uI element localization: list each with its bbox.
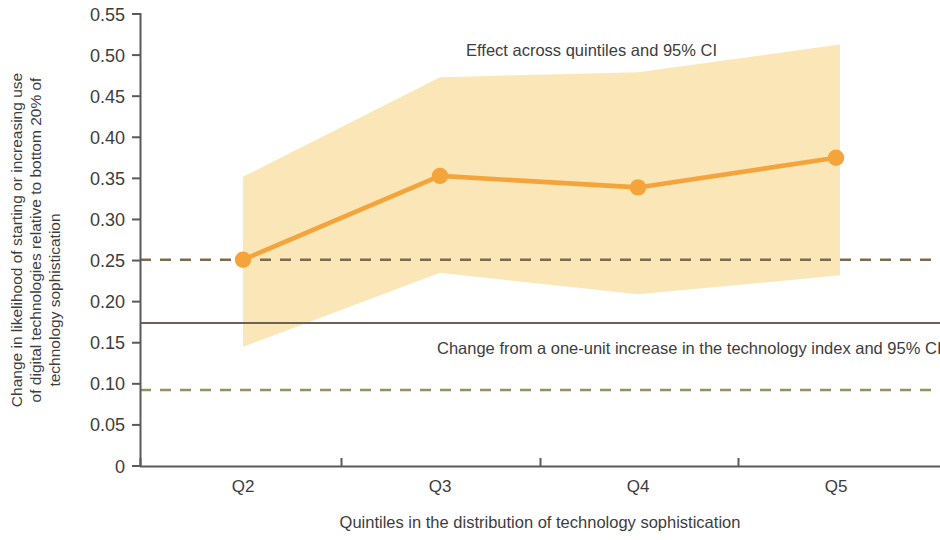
data-point-q4 — [630, 179, 646, 195]
y-axis-tick-label: 0.40 — [90, 128, 125, 148]
x-axis-tick-label-q3: Q3 — [429, 477, 452, 496]
data-point-q3 — [432, 168, 448, 184]
y-axis-title-line-2: of digital technologies relative to bott… — [27, 77, 44, 403]
data-point-q2 — [235, 252, 251, 268]
y-axis-tick-label: 0.05 — [90, 415, 125, 435]
x-axis-tick-label-q5: Q5 — [825, 477, 848, 496]
chart-figure: 00.050.100.150.200.250.300.350.400.450.5… — [0, 0, 940, 540]
x-axis-title: Quintiles in the distribution of technol… — [340, 513, 741, 531]
x-axis-tick-label-q2: Q2 — [232, 477, 255, 496]
y-axis-title-line-3: technology sophistication — [46, 213, 63, 386]
y-axis-tick-label: 0 — [115, 457, 125, 477]
y-axis-tick-label: 0.45 — [90, 87, 125, 107]
line-chart-with-confidence-band: 00.050.100.150.200.250.300.350.400.450.5… — [0, 0, 940, 540]
y-axis-tick-label: 0.20 — [90, 292, 125, 312]
y-axis-tick-label: 0.10 — [90, 374, 125, 394]
y-axis-tick-label: 0.55 — [90, 5, 125, 25]
x-axis-tick-label-q4: Q4 — [627, 477, 650, 496]
y-axis-tick-label: 0.50 — [90, 46, 125, 66]
y-axis-title-line-1: Change in likelihood of starting or incr… — [8, 73, 25, 407]
y-axis-tick-label: 0.30 — [90, 210, 125, 230]
y-axis-tick-label: 0.25 — [90, 251, 125, 271]
y-axis-tick-label: 0.15 — [90, 333, 125, 353]
data-point-q5 — [828, 150, 844, 166]
y-axis-tick-label: 0.35 — [90, 169, 125, 189]
effect-across-quintiles-annotation: Effect across quintiles and 95% CI — [466, 41, 717, 59]
technology-index-annotation: Change from a one-unit increase in the t… — [437, 339, 940, 357]
